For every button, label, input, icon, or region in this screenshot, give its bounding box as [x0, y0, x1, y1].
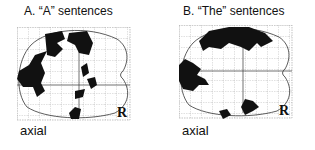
- orientation-marker-b: R: [279, 103, 290, 118]
- orientation-marker-a: R: [117, 105, 128, 120]
- panel-b-view-label: axial: [182, 123, 209, 138]
- panel-a-view-label: axial: [20, 123, 47, 138]
- panel-a-title: A. “A” sentences: [24, 4, 113, 18]
- panel-b-title: B. “The” sentences: [183, 4, 284, 18]
- panel-a-brain-map: R: [17, 27, 132, 122]
- panel-b-brain-map: R: [179, 25, 294, 120]
